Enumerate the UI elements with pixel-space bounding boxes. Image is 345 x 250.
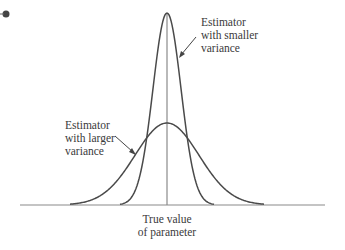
- label-true-value: True value of parameter: [127, 213, 207, 239]
- arrow-larger-variance: [115, 136, 136, 155]
- arrow-smaller-variance: [179, 37, 196, 58]
- label-larger-line3: variance: [65, 145, 115, 158]
- label-larger-line1: Estimator: [65, 119, 115, 132]
- label-true-value-line2: of parameter: [127, 226, 207, 239]
- label-smaller-line3: variance: [201, 42, 258, 55]
- label-smaller-line1: Estimator: [201, 16, 258, 29]
- label-smaller-variance: Estimator with smaller variance: [201, 16, 258, 55]
- label-larger-line2: with larger: [65, 132, 115, 145]
- label-smaller-line2: with smaller: [201, 29, 258, 42]
- label-true-value-line1: True value: [127, 213, 207, 226]
- label-larger-variance: Estimator with larger variance: [65, 119, 115, 158]
